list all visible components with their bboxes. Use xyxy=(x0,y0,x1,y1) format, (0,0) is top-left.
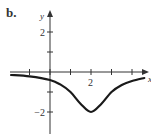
y-axis-label: y xyxy=(39,11,44,21)
panel-label: b. xyxy=(6,5,16,20)
data-curve xyxy=(11,75,144,112)
x-tick-label: 2 xyxy=(88,77,93,88)
chart: b. x y 22−2 xyxy=(0,0,151,136)
y-axis-arrow-icon xyxy=(47,10,53,17)
y-tick-label: 2 xyxy=(40,27,45,38)
y-tick-label: −2 xyxy=(34,107,45,118)
x-axis-label: x xyxy=(147,74,151,84)
